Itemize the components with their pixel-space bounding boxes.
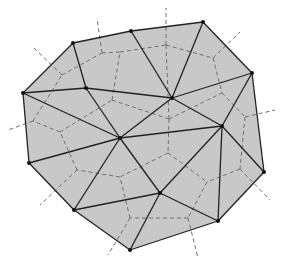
vertex-point (71, 41, 75, 45)
vertex-point (262, 170, 266, 174)
vertex-point (128, 248, 132, 252)
vertex-point (250, 71, 254, 75)
vertex-point (129, 29, 133, 33)
vertex-point (220, 124, 224, 128)
vertex-point (170, 96, 174, 100)
vertex-point (84, 86, 88, 90)
vertex-point (21, 91, 25, 95)
vertex-point (201, 20, 205, 24)
vertex-point (72, 208, 76, 212)
vertex-point (158, 191, 162, 195)
triangulation-diagram (0, 0, 285, 261)
vertex-point (118, 136, 122, 140)
vertex-point (27, 161, 31, 165)
vertex-point (216, 219, 220, 223)
